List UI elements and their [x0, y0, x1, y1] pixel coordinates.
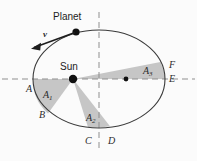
point-label-e: E [169, 74, 175, 84]
point-label-d: D [108, 136, 115, 146]
sun-marker [69, 75, 77, 83]
area-label-a2: A2 [86, 113, 96, 125]
area-label-a2-sub: 2 [92, 117, 96, 125]
point-label-c: C [85, 136, 92, 146]
area-label-a1-sub: 1 [49, 94, 53, 102]
orbit-diagram-svg [0, 0, 197, 161]
sun-label: Sun [60, 62, 78, 72]
second-focus-marker [124, 77, 129, 82]
velocity-vector-arrow [31, 33, 75, 51]
area-label-a3-sub: 3 [149, 70, 153, 78]
planet-marker [72, 28, 79, 35]
point-label-b: B [39, 110, 45, 120]
area-label-a3: A3 [143, 66, 153, 78]
velocity-label: v [43, 30, 47, 39]
point-label-a: A [26, 84, 32, 94]
point-label-f: F [169, 60, 175, 70]
area-label-a1: A1 [43, 90, 53, 102]
kepler-second-law-figure: Planet v Sun A1 A2 A3 A B C D E F [0, 0, 197, 161]
planet-label: Planet [53, 12, 81, 22]
